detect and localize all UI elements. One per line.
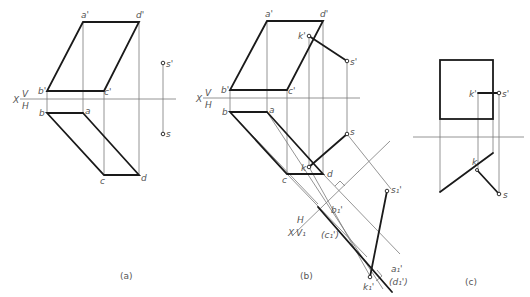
label-k1-prime: k₁'	[363, 282, 374, 292]
aux-projector-k	[309, 167, 370, 276]
axis-label-h1: H	[297, 215, 304, 225]
line-s1k1	[370, 191, 387, 277]
point-k-prime	[307, 34, 311, 38]
label-k: k	[472, 157, 478, 167]
point-s-prime	[161, 61, 165, 65]
top-view-plane	[47, 113, 139, 175]
caption-c: (c)	[465, 277, 477, 287]
point-s1-prime	[385, 189, 389, 193]
figure-b: X V H a' d' b' c' b a k' s' s k c d b₁' …	[195, 9, 408, 292]
point-s	[345, 132, 349, 136]
label-d: d	[141, 173, 147, 183]
front-view-plane	[440, 60, 493, 119]
axis-label-x: X	[12, 95, 20, 105]
label-a: a	[85, 106, 91, 116]
label-s-prime: s'	[350, 57, 357, 67]
point-s-prime	[345, 59, 349, 63]
label-s-prime: s'	[502, 89, 509, 99]
label-d-prime: d'	[136, 10, 144, 20]
label-c1-prime: (c₁')	[321, 230, 339, 240]
axis-label-v: V	[205, 88, 212, 98]
label-b: b	[39, 108, 45, 118]
label-a: a	[269, 105, 275, 115]
label-s: s	[503, 190, 508, 200]
label-k-prime: k'	[469, 89, 477, 99]
label-c-prime: c'	[288, 86, 295, 96]
figure-a: X V H a' d' b' c' b a c d s' s (a)	[12, 10, 176, 281]
axis-label-h: H	[22, 101, 29, 111]
label-s1-prime: s₁'	[391, 185, 402, 195]
aux-axis-x1	[293, 141, 390, 235]
point-s	[497, 192, 501, 196]
label-k: k	[301, 163, 307, 173]
axis-label-x1: X	[287, 228, 295, 238]
point-s-prime	[497, 91, 501, 95]
caption-b: (b)	[300, 271, 313, 281]
label-b-prime: b'	[38, 86, 46, 96]
label-s: s	[166, 129, 171, 139]
label-b1-prime: b₁'	[331, 205, 343, 215]
label-c: c	[282, 175, 287, 185]
aux-projector-s	[347, 134, 391, 189]
projection-diagram: X V H a' d' b' c' b a c d s' s (a)	[0, 0, 530, 297]
axis-label-h: H	[205, 100, 212, 110]
top-view-plane-edge	[440, 153, 493, 192]
label-d-prime: d'	[320, 9, 328, 19]
line-ks-front	[309, 36, 347, 61]
point-k1-prime	[368, 275, 372, 279]
right-angle-mark	[335, 181, 345, 186]
axis-label-v1: V₁	[296, 228, 306, 238]
label-a1-prime: a₁'	[391, 264, 403, 274]
point-k	[476, 169, 479, 172]
label-d1-prime: (d₁')	[389, 277, 408, 287]
label-d: d	[327, 169, 333, 179]
point-s	[161, 132, 165, 136]
label-a-prime: a'	[81, 10, 89, 20]
label-s: s	[350, 127, 355, 137]
label-k-prime: k'	[298, 31, 306, 41]
axis-label-v: V	[22, 89, 29, 99]
label-b: b	[222, 107, 228, 117]
point-k	[307, 165, 311, 169]
line-ks-top	[477, 170, 499, 194]
label-a-prime: a'	[265, 9, 273, 19]
label-s-prime: s'	[166, 59, 173, 69]
line-ks-top	[309, 134, 347, 167]
caption-a: (a)	[120, 271, 133, 281]
label-c: c	[100, 176, 105, 186]
front-view-plane	[47, 22, 139, 91]
label-c-prime: c'	[104, 87, 111, 97]
figure-c: k' s' k s (c)	[413, 60, 524, 287]
axis-label-x: X	[195, 94, 203, 104]
label-b-prime: b'	[221, 85, 229, 95]
